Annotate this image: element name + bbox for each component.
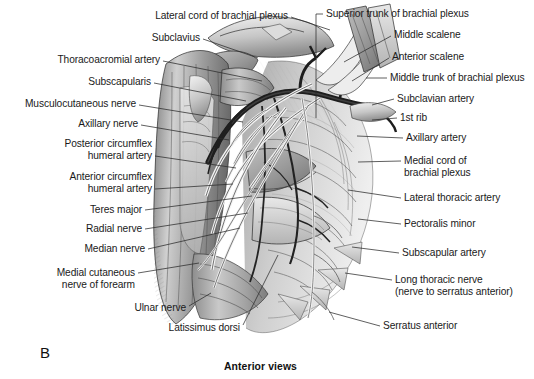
label-text-line1: Musculocutaneous nerve	[25, 98, 136, 109]
label-middle-scalene: Middle scalene	[394, 29, 461, 41]
label-text-line1: Subscapular artery	[402, 247, 486, 258]
label-text-line1: Ulnar nerve	[134, 302, 186, 313]
label-text-line1: Serratus anterior	[383, 320, 457, 331]
label-pectoralis-minor: Pectoralis minor	[404, 218, 475, 230]
label-text-line1: Superior trunk of brachial plexus	[326, 8, 469, 19]
label-text-line1: Teres major	[90, 204, 142, 215]
label-text-line1: Lateral cord of brachial plexus	[155, 10, 288, 21]
label-text-line1: Subclavius	[152, 32, 200, 43]
label-text-line1: Subclavian artery	[397, 93, 474, 104]
label-anterior-scalene: Anterior scalene	[392, 51, 464, 63]
label-text-line1: Thoracoacromial artery	[57, 54, 160, 65]
label-posterior-circumflex-humeral-artery: Posterior circumflexhumeral artery	[65, 138, 152, 162]
label-text-line1: Middle trunk of brachial plexus	[390, 72, 525, 83]
label-musculocutaneous-nerve: Musculocutaneous nerve	[25, 98, 136, 110]
label-subscapular-artery: Subscapular artery	[402, 247, 486, 259]
label-radial-nerve: Radial nerve	[86, 223, 142, 235]
label-text-line1: 1st rib	[400, 112, 427, 123]
label-superior-trunk-of-brachial-plexus: Superior trunk of brachial plexus	[326, 8, 469, 20]
label-subscapularis: Subscapularis	[88, 76, 151, 88]
label-text-line2: humeral artery	[70, 183, 152, 195]
label-text-line2: nerve of forearm	[57, 279, 135, 291]
label-median-nerve: Median nerve	[84, 243, 145, 255]
label-anterior-circumflex-humeral-artery: Anterior circumflexhumeral artery	[70, 171, 152, 195]
label-teres-major: Teres major	[90, 204, 142, 216]
label-lateral-cord-of-brachial-plexus: Lateral cord of brachial plexus	[155, 10, 288, 22]
label-text-line1: Anterior scalene	[392, 51, 464, 62]
label-text-line2: humeral artery	[65, 150, 152, 162]
label-text-line1: Axillary nerve	[78, 118, 138, 129]
label-text-line1: Subscapularis	[88, 76, 151, 87]
label-text-line1: Medial cutaneous	[57, 267, 135, 278]
anatomy-figure: Lateral cord of brachial plexusSubclaviu…	[0, 0, 534, 379]
label-lateral-thoracic-artery: Lateral thoracic artery	[404, 192, 500, 204]
label-text-line1: Axillary artery	[406, 132, 466, 143]
label-thoracoacromial-artery: Thoracoacromial artery	[57, 54, 160, 66]
label-text-line1: Medial cord of	[404, 155, 467, 166]
label-text-line2: brachial plexus	[404, 167, 470, 179]
label-text-line1: Middle scalene	[394, 29, 461, 40]
label-text-line1: Pectoralis minor	[404, 218, 475, 229]
label-text-line1: Long thoracic nerve	[395, 274, 483, 285]
label-text-line1: Lateral thoracic artery	[404, 192, 500, 203]
label-subclavian-artery: Subclavian artery	[397, 93, 474, 105]
label-text-line1: Posterior circumflex	[65, 138, 152, 149]
panel-letter: B	[40, 344, 50, 361]
label-latissimus-dorsi: Latissimus dorsi	[169, 322, 240, 334]
label-first-rib: 1st rib	[400, 112, 427, 124]
label-middle-trunk-of-brachial-plexus: Middle trunk of brachial plexus	[390, 72, 525, 84]
label-serratus-anterior: Serratus anterior	[383, 320, 457, 332]
label-axillary-nerve: Axillary nerve	[78, 118, 138, 130]
label-subclavius: Subclavius	[152, 32, 200, 44]
label-text-line2: (nerve to serratus anterior)	[395, 286, 513, 298]
anatomical-illustration	[150, 2, 400, 347]
label-medial-cutaneous-nerve-of-forearm: Medial cutaneousnerve of forearm	[57, 267, 135, 291]
label-text-line1: Median nerve	[84, 243, 145, 254]
label-text-line1: Latissimus dorsi	[169, 322, 240, 333]
figure-caption: Anterior views	[224, 361, 297, 372]
label-text-line1: Radial nerve	[86, 223, 142, 234]
label-ulnar-nerve: Ulnar nerve	[134, 302, 186, 314]
label-text-line1: Anterior circumflex	[70, 171, 152, 182]
label-axillary-artery: Axillary artery	[406, 132, 466, 144]
label-long-thoracic-nerve: Long thoracic nerve(nerve to serratus an…	[395, 274, 513, 298]
label-medial-cord-of-brachial-plexus: Medial cord ofbrachial plexus	[404, 155, 470, 179]
